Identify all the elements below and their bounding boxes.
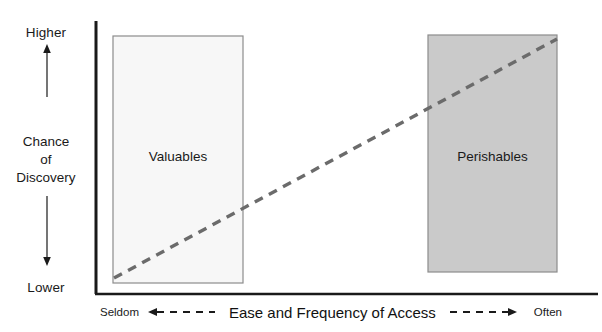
y-axis-title-line-2: of xyxy=(16,151,75,169)
y-axis-high-label: Higher xyxy=(26,24,66,41)
y-axis-low-label: Lower xyxy=(27,279,64,296)
x-axis-left-arrow-icon xyxy=(145,305,217,319)
region-label-valuables: Valuables xyxy=(113,149,243,164)
x-axis-high-label: Often xyxy=(534,306,562,318)
y-axis-title-line-3: Discovery xyxy=(16,169,75,187)
x-axis-title: Ease and Frequency of Access xyxy=(223,304,442,321)
x-axis-low-label: Seldom xyxy=(100,306,139,318)
y-axis-labels: Higher Chance of Discovery Lower xyxy=(0,24,92,296)
chart-canvas: Higher Chance of Discovery Lower Valuabl… xyxy=(0,0,602,332)
y-axis-title-line-1: Chance xyxy=(16,133,75,151)
x-axis-right-arrow-icon xyxy=(448,305,520,319)
x-axis-labels: Seldom Ease and Frequency of Access Ofte… xyxy=(96,299,602,325)
y-axis-title: Chance of Discovery xyxy=(16,133,75,187)
region-label-perishables: Perishables xyxy=(428,149,557,164)
